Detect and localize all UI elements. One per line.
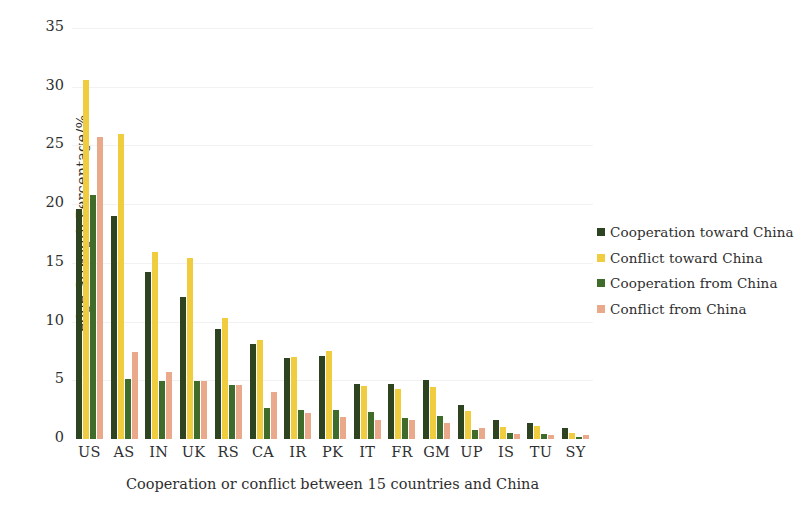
legend-swatch-icon xyxy=(597,279,605,287)
bar-ir-series-0 xyxy=(284,358,290,439)
bar-in-series-2 xyxy=(159,381,165,439)
bar-pk-series-0 xyxy=(319,356,325,439)
bar-as-series-0 xyxy=(111,216,117,439)
legend-label: Cooperation toward China xyxy=(610,224,794,240)
y-tick-label: 25 xyxy=(46,135,64,151)
legend-label: Cooperation from China xyxy=(610,275,778,291)
bar-group-us xyxy=(72,28,107,439)
bar-up-series-0 xyxy=(458,405,464,439)
y-tick-label: 20 xyxy=(46,194,64,210)
bar-sy-series-1 xyxy=(569,433,575,439)
y-tick-label: 5 xyxy=(55,370,64,386)
legend-swatch-icon xyxy=(597,305,605,313)
bar-group-ca xyxy=(246,28,281,439)
bar-tu-series-0 xyxy=(527,423,533,439)
bar-sy-series-3 xyxy=(583,435,589,439)
bar-us-series-2 xyxy=(90,195,96,439)
chart-legend: Cooperation toward ChinaConflict toward … xyxy=(597,224,794,317)
legend-item-1: Conflict toward China xyxy=(597,250,794,266)
x-tick-label-ir: IR xyxy=(280,444,315,460)
bar-is-series-1 xyxy=(500,427,506,439)
bar-ir-series-1 xyxy=(291,357,297,439)
bar-ca-series-2 xyxy=(264,408,270,439)
x-tick-label-us: US xyxy=(72,444,107,460)
bar-tu-series-3 xyxy=(548,435,554,439)
bar-uk-series-0 xyxy=(180,297,186,439)
bar-uk-series-1 xyxy=(187,258,193,439)
bar-gm-series-3 xyxy=(444,423,450,439)
bar-group-fr xyxy=(385,28,420,439)
bar-is-series-3 xyxy=(514,434,520,439)
y-tick-label: 0 xyxy=(55,429,64,445)
x-tick-label-in: IN xyxy=(141,444,176,460)
x-tick-label-rs: RS xyxy=(211,444,246,460)
x-axis-tick-labels: USASINUKRSCAIRPKITFRGMUPISTUSY xyxy=(72,444,593,460)
bar-is-series-2 xyxy=(507,433,513,439)
legend-swatch-icon xyxy=(597,228,605,236)
bar-group-sy xyxy=(558,28,593,439)
bar-rs-series-0 xyxy=(215,329,221,439)
bar-group-rs xyxy=(211,28,246,439)
bar-rs-series-2 xyxy=(229,385,235,439)
y-tick-label: 10 xyxy=(46,312,64,328)
bar-tu-series-2 xyxy=(541,434,547,439)
bar-rs-series-3 xyxy=(236,385,242,439)
bar-ca-series-3 xyxy=(271,392,277,439)
bar-group-is xyxy=(489,28,524,439)
x-tick-label-uk: UK xyxy=(176,444,211,460)
bar-in-series-3 xyxy=(166,372,172,439)
legend-swatch-icon xyxy=(597,254,605,262)
legend-item-2: Cooperation from China xyxy=(597,275,794,291)
bar-as-series-3 xyxy=(132,352,138,439)
bar-ir-series-3 xyxy=(305,413,311,439)
x-tick-label-up: UP xyxy=(454,444,489,460)
bar-tu-series-1 xyxy=(534,426,540,439)
x-tick-label-tu: TU xyxy=(524,444,559,460)
y-tick-label: 15 xyxy=(46,253,64,269)
bar-us-series-3 xyxy=(97,137,103,439)
bar-in-series-1 xyxy=(152,252,158,439)
plot-area: 05101520253035 xyxy=(72,28,593,439)
bar-up-series-2 xyxy=(472,430,478,439)
x-tick-label-fr: FR xyxy=(385,444,420,460)
bar-group-tu xyxy=(524,28,559,439)
bar-group-ir xyxy=(280,28,315,439)
bar-it-series-3 xyxy=(375,420,381,439)
bar-group-up xyxy=(454,28,489,439)
bar-ir-series-2 xyxy=(298,410,304,439)
bar-group-it xyxy=(350,28,385,439)
legend-item-3: Conflict from China xyxy=(597,301,794,317)
bar-pk-series-3 xyxy=(340,417,346,439)
legend-label: Conflict from China xyxy=(610,301,747,317)
x-tick-label-it: IT xyxy=(350,444,385,460)
bar-is-series-0 xyxy=(493,420,499,439)
bar-as-series-2 xyxy=(125,379,131,439)
bar-group-pk xyxy=(315,28,350,439)
bar-as-series-1 xyxy=(118,134,124,439)
bars-layer xyxy=(72,28,593,439)
bar-fr-series-1 xyxy=(395,389,401,439)
x-tick-label-is: IS xyxy=(489,444,524,460)
bar-group-as xyxy=(107,28,142,439)
bar-ca-series-1 xyxy=(257,340,263,439)
bar-uk-series-2 xyxy=(194,381,200,439)
bar-in-series-0 xyxy=(145,272,151,439)
bar-pk-series-2 xyxy=(333,410,339,439)
bar-ca-series-0 xyxy=(250,344,256,439)
bar-pk-series-1 xyxy=(326,351,332,439)
x-tick-label-sy: SY xyxy=(558,444,593,460)
bar-uk-series-3 xyxy=(201,381,207,439)
legend-item-0: Cooperation toward China xyxy=(597,224,794,240)
bar-it-series-0 xyxy=(354,384,360,439)
bar-up-series-3 xyxy=(479,428,485,439)
bar-sy-series-0 xyxy=(562,428,568,439)
bar-it-series-2 xyxy=(368,412,374,439)
y-tick-label: 30 xyxy=(46,77,64,93)
bar-group-in xyxy=(141,28,176,439)
bar-gm-series-0 xyxy=(423,380,429,439)
bar-us-series-0 xyxy=(76,209,82,439)
bar-fr-series-0 xyxy=(388,384,394,439)
x-axis-title: Cooperation or conflict between 15 count… xyxy=(72,476,593,492)
legend-label: Conflict toward China xyxy=(610,250,763,266)
gridline xyxy=(72,439,593,440)
